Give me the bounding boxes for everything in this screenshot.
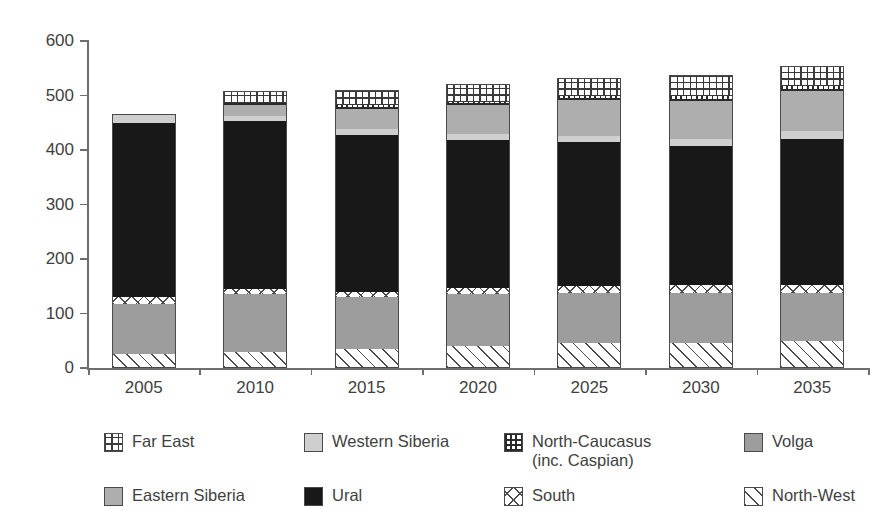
- x-axis-tick-label: 2005: [104, 378, 184, 398]
- stacked-bar-chart: 0100200300400500600 20052010201520202025…: [0, 0, 889, 531]
- y-axis-tick: [80, 367, 87, 369]
- bar-segment-volga: [557, 293, 621, 343]
- bar-segment-eastern-siberia: [669, 101, 733, 139]
- y-axis-tick-label: 600: [28, 32, 74, 49]
- bar-segment-ural: [335, 135, 399, 292]
- x-axis-tick: [88, 368, 90, 375]
- bar-segment-western-siberia: [335, 129, 399, 134]
- y-axis-tick-label: 0: [28, 359, 74, 376]
- y-axis-tick: [80, 40, 87, 42]
- x-axis-tick: [199, 368, 201, 375]
- bar-segment-north-west: [335, 349, 399, 368]
- bar-segment-volga: [223, 294, 287, 351]
- legend-item-north-caucasus[interactable]: North-Caucasus (inc. Caspian): [504, 432, 651, 470]
- bar-segment-volga: [335, 297, 399, 349]
- bar-segment-eastern-siberia: [780, 91, 844, 131]
- legend-item-western-siberia[interactable]: Western Siberia: [304, 432, 449, 452]
- bar-2010: [223, 41, 287, 368]
- bar-segment-north-caucasus: [223, 103, 287, 105]
- bar-segment-south: [669, 285, 733, 293]
- x-axis-tick: [868, 368, 870, 375]
- bar-segment-south: [557, 286, 621, 294]
- bar-segment-eastern-siberia: [557, 100, 621, 135]
- x-axis-tick: [311, 368, 313, 375]
- bar-segment-eastern-siberia: [223, 105, 287, 116]
- bar-2015: [335, 41, 399, 368]
- bar-segment-far-east: [223, 91, 287, 103]
- y-axis-tick: [80, 204, 87, 206]
- legend-label: South: [532, 486, 575, 505]
- x-axis-tick-label: 2035: [772, 378, 852, 398]
- legend-swatch-ural-icon: [304, 487, 323, 506]
- bar-segment-ural: [223, 121, 287, 289]
- bar-segment-ural: [112, 123, 176, 297]
- legend-label: North-West: [772, 486, 855, 505]
- y-axis-tick-label: 200: [28, 250, 74, 267]
- legend-swatch-western-siberia-icon: [304, 433, 323, 452]
- legend-swatch-north-west-icon: [744, 487, 763, 506]
- bar-segment-south: [446, 288, 510, 295]
- bar-segment-far-east: [112, 114, 176, 116]
- bar-segment-north-caucasus: [557, 96, 621, 100]
- bar-segment-ural: [669, 146, 733, 286]
- bar-segment-north-caucasus: [446, 102, 510, 106]
- bar-segment-north-caucasus: [335, 105, 399, 108]
- bar-segment-western-siberia: [557, 136, 621, 143]
- bar-segment-ural: [446, 140, 510, 288]
- legend-item-ural[interactable]: Ural: [304, 486, 362, 506]
- x-axis-tick-label: 2030: [661, 378, 741, 398]
- bar-segment-volga: [112, 304, 176, 355]
- bar-segment-north-caucasus: [780, 86, 844, 91]
- legend-swatch-north-caucasus-icon: [504, 433, 523, 452]
- legend-item-south[interactable]: South: [504, 486, 575, 506]
- legend-swatch-eastern-siberia-icon: [104, 487, 123, 506]
- legend-item-far-east[interactable]: Far East: [104, 432, 194, 452]
- bar-segment-north-west: [557, 343, 621, 368]
- bar-segment-eastern-siberia: [446, 105, 510, 133]
- legend-swatch-south-icon: [504, 487, 523, 506]
- legend-label: Ural: [332, 486, 362, 505]
- x-axis-tick: [757, 368, 759, 375]
- bar-segment-far-east: [557, 78, 621, 97]
- y-axis-tick-label: 300: [28, 196, 74, 213]
- bar-segment-western-siberia: [780, 131, 844, 138]
- legend-label: North-Caucasus (inc. Caspian): [532, 432, 651, 470]
- y-axis-tick-label: 400: [28, 141, 74, 158]
- legend-item-eastern-siberia[interactable]: Eastern Siberia: [104, 486, 245, 506]
- bar-segment-north-west: [446, 346, 510, 368]
- bar-segment-ural: [780, 139, 844, 285]
- bar-segment-north-west: [112, 354, 176, 368]
- bar-segment-south: [335, 292, 399, 297]
- bar-2020: [446, 41, 510, 368]
- y-axis-tick: [80, 258, 87, 260]
- y-axis-tick: [80, 95, 87, 97]
- x-axis-tick-label: 2015: [327, 378, 407, 398]
- legend-item-volga[interactable]: Volga: [744, 432, 813, 452]
- bar-segment-north-west: [780, 341, 844, 368]
- bar-segment-far-east: [335, 90, 399, 105]
- x-axis-tick-label: 2025: [549, 378, 629, 398]
- legend-swatch-far-east-icon: [104, 433, 123, 452]
- bar-2035: [780, 41, 844, 368]
- legend-swatch-volga-icon: [744, 433, 763, 452]
- bar-2005: [112, 41, 176, 368]
- bar-segment-south: [223, 289, 287, 294]
- bar-segment-south: [112, 297, 176, 304]
- x-axis-tick-label: 2020: [438, 378, 518, 398]
- bar-segment-far-east: [780, 66, 844, 87]
- bar-segment-north-caucasus: [669, 96, 733, 101]
- bar-2030: [669, 41, 733, 368]
- bar-segment-north-west: [669, 343, 733, 368]
- x-axis-tick: [645, 368, 647, 375]
- bar-segment-western-siberia: [446, 134, 510, 140]
- x-axis-tick-label: 2010: [215, 378, 295, 398]
- y-axis-tick: [80, 149, 87, 151]
- bar-segment-far-east: [446, 84, 510, 101]
- bar-segment-western-siberia: [669, 139, 733, 146]
- y-axis-tick-label: 100: [28, 305, 74, 322]
- bar-2025: [557, 41, 621, 368]
- legend-item-north-west[interactable]: North-West: [744, 486, 855, 506]
- bar-segment-far-east: [669, 75, 733, 96]
- x-axis-tick: [534, 368, 536, 375]
- bar-segment-volga: [780, 293, 844, 341]
